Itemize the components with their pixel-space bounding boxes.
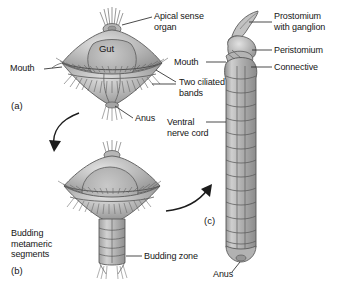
- label-ventral-nerve-cord: Ventralnerve cord: [167, 117, 209, 138]
- panel-id-b: (b): [11, 265, 23, 276]
- panel-a-trochophore: [52, 7, 168, 121]
- label-budding-zone: Budding zone: [144, 251, 198, 262]
- label-anus-a: Anus: [135, 113, 155, 124]
- label-two-ciliated-bands: Two ciliatedbands: [179, 77, 225, 98]
- leader-anus-c: [232, 262, 240, 272]
- arrow-a-to-b: [49, 113, 79, 152]
- label-peristomium: Peristomium: [274, 45, 323, 56]
- leader-anus-a: [115, 106, 133, 118]
- label-gut: Gut: [99, 44, 114, 55]
- arrow-b-to-c: [166, 184, 212, 211]
- label-budding-metameric-segments: Buddingmetamericsegments: [11, 228, 52, 260]
- label-prostomium-with-ganglion: Prostomiumwith ganglion: [274, 11, 325, 32]
- panel-id-a: (a): [11, 100, 23, 111]
- label-mouth-a: Mouth: [10, 63, 35, 74]
- label-mouth-c: Mouth: [174, 57, 199, 68]
- leader-apical-sense-organ: [122, 17, 152, 25]
- budding-metameric-trunk: [99, 219, 125, 265]
- panel-c-adult-worm: [225, 11, 258, 262]
- label-connective: Connective: [274, 62, 318, 73]
- label-anus-c: Anus: [213, 269, 233, 280]
- anus-c: [236, 255, 246, 261]
- label-apical-sense-organ: Apical senseorgan: [154, 11, 204, 32]
- panel-id-c: (c): [204, 215, 215, 226]
- worm-body-segments: [225, 58, 257, 252]
- leader-ciliated-band-upper: [156, 70, 176, 82]
